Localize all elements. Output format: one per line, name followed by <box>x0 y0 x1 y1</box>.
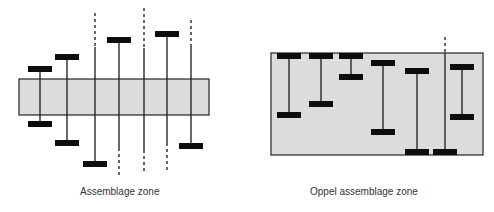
last-appearance-bar <box>371 129 395 135</box>
last-appearance-bar <box>83 161 107 167</box>
oppel-assemblage-zone-caption: Oppel assemblage zone <box>310 186 418 197</box>
first-appearance-bar <box>55 54 79 60</box>
last-appearance-bar <box>405 149 429 155</box>
last-appearance-bar <box>277 112 301 118</box>
last-appearance-bar <box>55 140 79 146</box>
last-appearance-bar <box>28 121 52 127</box>
first-appearance-bar <box>107 37 131 43</box>
first-appearance-bar <box>28 66 52 72</box>
zone-rectangle <box>19 79 209 115</box>
last-appearance-bar <box>450 114 474 120</box>
first-appearance-bar <box>339 53 363 59</box>
first-appearance-bar <box>405 68 429 74</box>
last-appearance-bar <box>339 74 363 80</box>
first-appearance-bar <box>450 64 474 70</box>
last-appearance-bar <box>309 101 333 107</box>
first-appearance-bar <box>155 31 179 37</box>
oppel-assemblage-zone-panel <box>271 37 483 155</box>
last-appearance-bar <box>179 143 203 149</box>
first-appearance-bar <box>309 53 333 59</box>
assemblage-zone-caption: Assemblage zone <box>80 186 160 197</box>
biostratigraphic-zones-diagram <box>0 0 494 212</box>
first-appearance-bar <box>277 53 301 59</box>
first-appearance-bar <box>371 60 395 66</box>
assemblage-zone-panel <box>19 8 209 178</box>
last-appearance-bar <box>433 149 457 155</box>
